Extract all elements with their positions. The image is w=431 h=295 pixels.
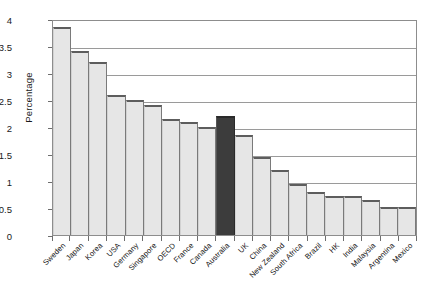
x-label-cell: Canada [198, 241, 216, 295]
bar [398, 207, 416, 235]
bar-chart: Percentage 43.532.521.510.50 SwedenJapan… [0, 0, 431, 295]
x-label-cell: Australia [216, 241, 234, 295]
y-tick-label: 0.5 [0, 204, 12, 215]
y-tick-label: 2.5 [0, 96, 12, 107]
x-label-cell: Sweden [52, 241, 70, 295]
bar [344, 196, 362, 235]
y-tick-label: 1 [0, 177, 12, 188]
x-label-cell: Argentina [381, 241, 399, 295]
bar [71, 51, 89, 235]
y-axis-title: Percentage [23, 38, 34, 158]
x-axis-category-label: HK [327, 241, 341, 255]
bar [126, 100, 144, 235]
x-label-cell: UK [235, 241, 253, 295]
bar [362, 200, 380, 235]
x-label-cell: OECD [162, 241, 180, 295]
plot-area [52, 20, 417, 236]
y-tick-label: 0 [0, 231, 12, 242]
x-label-cell: HK [326, 241, 344, 295]
x-label-cell: India [344, 241, 362, 295]
x-axis-labels: SwedenJapanKoreaUSAGermanySingaporeOECDF… [52, 241, 417, 295]
bars-container [53, 21, 416, 235]
x-axis-category-label: Sweden [41, 241, 67, 267]
x-label-cell: Mexico [399, 241, 417, 295]
bar [144, 105, 162, 235]
x-label-cell: Singapore [143, 241, 161, 295]
y-tick-label: 1.5 [0, 150, 12, 161]
x-label-cell: South Africa [289, 241, 307, 295]
bar [325, 196, 343, 235]
bar [253, 157, 271, 235]
x-label-cell: Korea [89, 241, 107, 295]
bar [235, 135, 253, 235]
y-tick-label: 2 [0, 123, 12, 134]
bar [271, 170, 289, 235]
bar [180, 122, 198, 235]
bar [198, 127, 216, 235]
bar [107, 95, 125, 235]
y-tick-label: 3.5 [0, 42, 12, 53]
bar [216, 116, 234, 235]
x-axis-category-label: UK [236, 241, 250, 255]
y-tick-label: 4 [0, 15, 12, 26]
x-label-cell: Japan [70, 241, 88, 295]
bar [307, 192, 325, 235]
x-label-cell: France [180, 241, 198, 295]
bar [380, 207, 398, 235]
bar [289, 184, 307, 235]
y-tick-label: 3 [0, 69, 12, 80]
bar [53, 27, 71, 235]
x-label-cell: Brazil [308, 241, 326, 295]
bar [162, 119, 180, 235]
bar [89, 62, 107, 235]
